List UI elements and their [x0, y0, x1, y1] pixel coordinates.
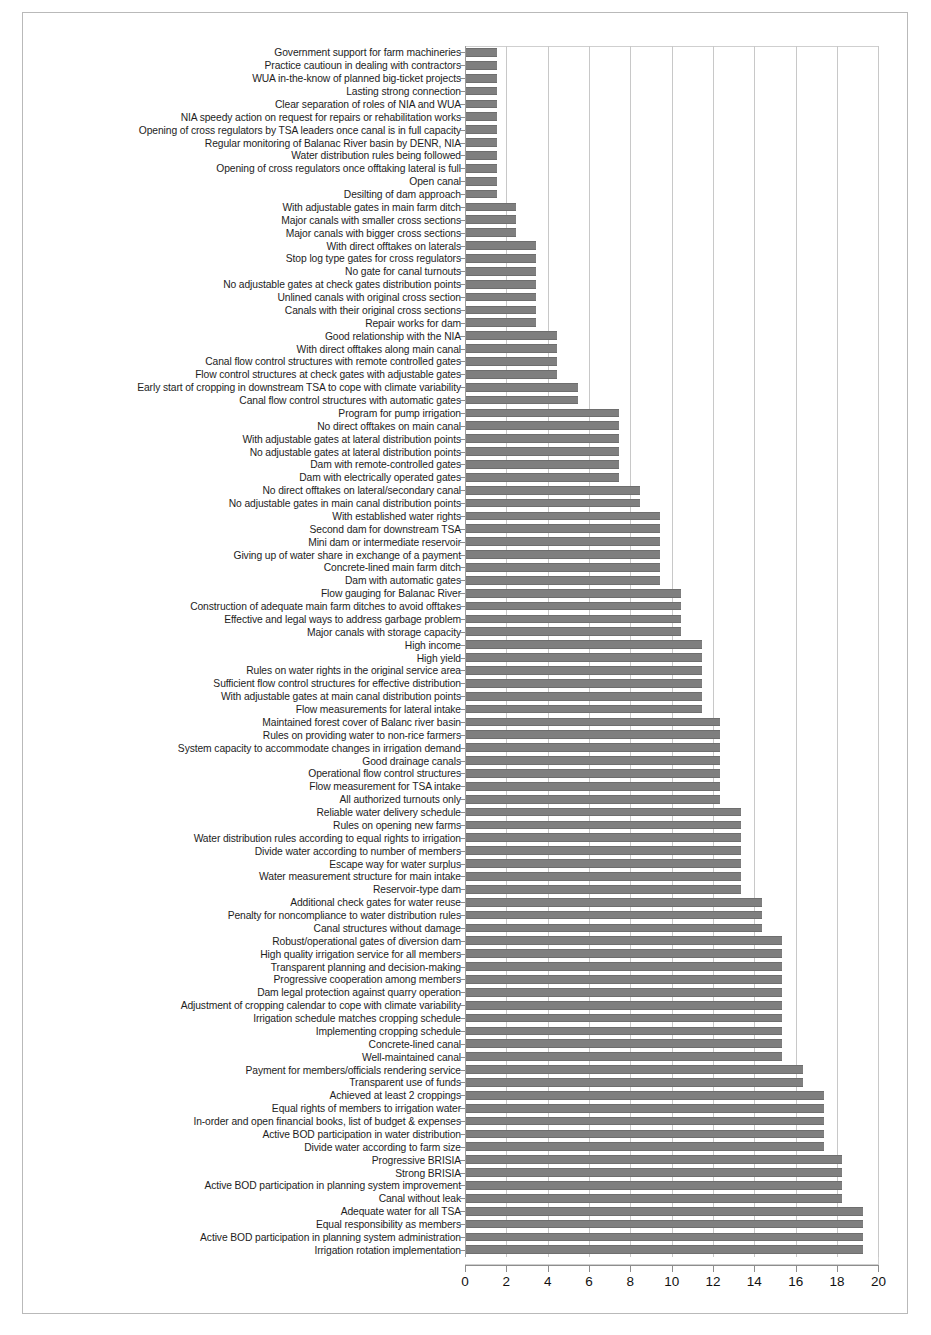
bar-row: Equal rights of members to irrigation wa…	[0, 1102, 931, 1115]
bar	[466, 215, 516, 224]
y-axis-tick	[460, 284, 465, 285]
y-axis-tick	[460, 1224, 465, 1225]
category-label: Early start of cropping in downstream TS…	[137, 382, 461, 393]
category-label: Repair works for dam	[365, 317, 461, 328]
bar-row: Dam with automatic gates	[0, 574, 931, 587]
bar	[466, 782, 720, 791]
category-label: Penalty for noncompliance to water distr…	[228, 910, 461, 921]
bar-row: Program for pump irrigation	[0, 407, 931, 420]
y-axis-tick	[460, 361, 465, 362]
bar	[466, 512, 660, 521]
bar-row: Canal flow control structures with autom…	[0, 394, 931, 407]
bar	[466, 1181, 842, 1190]
bar-row: Regular monitoring of Balanac River basi…	[0, 136, 931, 149]
bar	[466, 537, 660, 546]
bar-row: Adjustment of cropping calendar to cope …	[0, 999, 931, 1012]
bar	[466, 988, 782, 997]
y-axis-tick	[460, 761, 465, 762]
category-label: Maintained forest cover of Balanc river …	[262, 716, 461, 727]
bar	[466, 872, 741, 881]
bar-row: Unlined canals with original cross secti…	[0, 291, 931, 304]
bar-row: Divide water according to farm size	[0, 1140, 931, 1153]
category-label: No adjustable gates at lateral distribut…	[250, 446, 461, 457]
y-axis-tick	[460, 439, 465, 440]
bar-row: Dam with remote-controlled gates	[0, 458, 931, 471]
y-axis-tick	[460, 400, 465, 401]
bar-row: Achieved at least 2 croppings	[0, 1089, 931, 1102]
x-axis-tick-label: 18	[830, 1274, 845, 1289]
x-axis: 02468101214161820	[0, 1265, 931, 1315]
bar	[466, 61, 497, 70]
bar	[466, 203, 516, 212]
y-axis-tick	[460, 954, 465, 955]
bar	[466, 421, 619, 430]
bar-row: Flow measurement for TSA intake	[0, 780, 931, 793]
y-axis-tick	[460, 1147, 465, 1148]
y-axis-tick	[460, 658, 465, 659]
bar-row: Rules on water rights in the original se…	[0, 664, 931, 677]
bar	[466, 1155, 842, 1164]
category-label: Mini dam or intermediate reservoir	[308, 536, 461, 547]
bar-row: Major canals with storage capacity	[0, 625, 931, 638]
y-axis-tick	[460, 632, 465, 633]
y-axis-tick	[460, 1005, 465, 1006]
y-axis-tick	[460, 606, 465, 607]
bar-row: Reliable water delivery schedule	[0, 806, 931, 819]
bar-row: Desilting of dam approach	[0, 188, 931, 201]
category-label: Reliable water delivery schedule	[317, 807, 461, 818]
category-label: Additional check gates for water reuse	[290, 897, 461, 908]
category-label: Flow measurements for lateral intake	[296, 704, 461, 715]
y-axis-tick	[460, 967, 465, 968]
y-axis-tick	[460, 1031, 465, 1032]
bar-row: Water measurement structure for main int…	[0, 870, 931, 883]
bar	[466, 370, 557, 379]
bar-row: Active BOD participation in water distri…	[0, 1128, 931, 1141]
category-label: Progressive BRISIA	[372, 1154, 461, 1165]
bar-row: Second dam for downstream TSA	[0, 522, 931, 535]
y-axis-tick	[460, 246, 465, 247]
bar	[466, 550, 660, 559]
bar	[466, 756, 720, 765]
category-label: Desilting of dam approach	[344, 189, 461, 200]
y-axis-tick	[460, 374, 465, 375]
bar-row: Effective and legal ways to address garb…	[0, 613, 931, 626]
bar-row: Clear separation of roles of NIA and WUA	[0, 98, 931, 111]
bar-row: Irrigation rotation implementation	[0, 1243, 931, 1256]
category-label: No direct offtakes on main canal	[317, 420, 461, 431]
bar-row: Canal without leak	[0, 1192, 931, 1205]
x-axis-tick-2	[506, 1266, 507, 1272]
category-label: Good drainage canals	[362, 755, 461, 766]
y-axis-tick	[460, 336, 465, 337]
y-axis-tick	[460, 902, 465, 903]
category-label: Divide water according to farm size	[304, 1141, 461, 1152]
bar-row: Flow control structures at check gates w…	[0, 368, 931, 381]
bar	[466, 331, 557, 340]
x-axis-tick-label: 14	[747, 1274, 762, 1289]
category-label: Divide water according to number of memb…	[255, 845, 461, 856]
y-axis-tick	[460, 168, 465, 169]
bar	[466, 473, 619, 482]
x-axis-tick-20	[878, 1266, 879, 1272]
bar	[466, 1168, 842, 1177]
bar-row: Good relationship with the NIA	[0, 329, 931, 342]
y-axis-tick	[460, 349, 465, 350]
category-label: Good relationship with the NIA	[325, 330, 461, 341]
category-label: Stop log type gates for cross regulators	[286, 253, 461, 264]
bar-row: Robust/operational gates of diversion da…	[0, 934, 931, 947]
bar	[466, 383, 578, 392]
figure-page: Government support for farm machineriesP…	[0, 0, 931, 1335]
bar-row: Active BOD participation in planning sys…	[0, 1179, 931, 1192]
category-label: Flow control structures at check gates w…	[195, 369, 461, 380]
bar	[466, 718, 720, 727]
y-axis-tick	[460, 619, 465, 620]
y-axis-tick	[460, 864, 465, 865]
category-label: Canals with their original cross section…	[285, 304, 461, 315]
bar	[466, 151, 497, 160]
bar-row: Stop log type gates for cross regulators	[0, 252, 931, 265]
y-axis-tick	[460, 258, 465, 259]
bar-row: In-order and open financial books, list …	[0, 1115, 931, 1128]
category-label: Concrete-lined main farm ditch	[324, 562, 461, 573]
bar-row: Flow gauging for Balanac River	[0, 587, 931, 600]
bar	[466, 499, 640, 508]
bar	[466, 1245, 863, 1254]
